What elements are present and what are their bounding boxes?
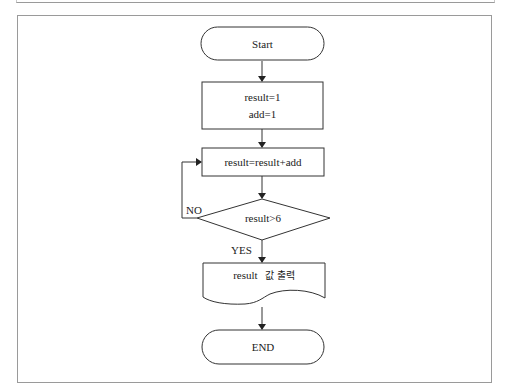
decision-diamond: result>6: [197, 199, 330, 240]
output-label-latin: result: [233, 269, 257, 281]
end-label: END: [252, 341, 275, 353]
update-process: result=result+add: [202, 148, 324, 176]
update-label: result=result+add: [224, 156, 302, 168]
flowchart: Start result=1 add=1 result=result+add r…: [0, 0, 505, 386]
decision-label: result>6: [245, 212, 282, 224]
output-label-korean: 값 출력: [265, 270, 295, 281]
init-line-1: result=1: [244, 91, 280, 103]
yes-label: YES: [231, 244, 252, 256]
start-label: Start: [252, 38, 273, 50]
output-document: result 값 출력: [203, 263, 325, 304]
init-process: result=1 add=1: [202, 82, 323, 129]
init-line-2: add=1: [249, 108, 277, 120]
no-label: NO: [186, 204, 202, 216]
end-terminal: END: [202, 330, 324, 364]
start-terminal: Start: [201, 27, 324, 60]
